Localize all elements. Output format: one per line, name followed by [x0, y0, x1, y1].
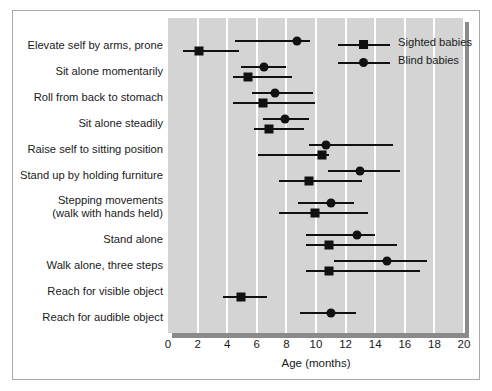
legend: Sighted babies Blind babies [338, 36, 463, 72]
circle-marker-icon [326, 199, 335, 208]
square-marker-icon [325, 267, 334, 276]
gridline [315, 18, 317, 333]
x-tick-label: 10 [301, 338, 331, 350]
square-marker-icon [236, 293, 245, 302]
category-label: Stepping movements(walk with hands held) [8, 194, 163, 220]
category-label: Stand up by holding furniture [8, 169, 163, 182]
square-marker-icon [317, 151, 326, 160]
square-marker-icon [195, 47, 204, 56]
square-marker-icon [359, 40, 368, 49]
x-tick-label: 18 [419, 338, 449, 350]
x-tick-label: 12 [331, 338, 361, 350]
circle-marker-icon [359, 58, 368, 67]
legend-item-sighted-babies: Sighted babies [338, 36, 463, 52]
x-tick-label: 6 [242, 338, 272, 350]
category-label: Reach for visible object [8, 285, 163, 298]
figure-root: Elevate self by arms, proneSit alone mom… [0, 0, 492, 391]
gridline [463, 18, 465, 333]
category-label: Raise self to sitting position [8, 143, 163, 156]
category-label: Sit alone momentarily [8, 65, 163, 78]
square-marker-icon [243, 73, 252, 82]
square-marker-icon [325, 241, 334, 250]
circle-marker-icon [260, 63, 269, 72]
x-tick-label: 0 [153, 338, 183, 350]
square-marker-icon [304, 177, 313, 186]
error-bar [183, 50, 239, 52]
circle-marker-icon [280, 115, 289, 124]
x-tick-label: 4 [212, 338, 242, 350]
square-marker-icon [264, 125, 273, 134]
category-label: Stand alone [8, 233, 163, 246]
legend-label: Blind babies [398, 54, 459, 66]
category-label: Walk alone, three steps [8, 259, 163, 272]
legend-label: Sighted babies [398, 36, 472, 48]
circle-marker-icon [356, 167, 365, 176]
circle-marker-icon [353, 231, 362, 240]
category-label: Roll from back to stomach [8, 91, 163, 104]
error-bar [254, 128, 304, 130]
x-tick-label: 2 [183, 338, 213, 350]
error-bar [279, 212, 368, 214]
category-label: Sit alone steadily [8, 117, 163, 130]
category-label: Elevate self by arms, prone [8, 39, 163, 52]
error-bar [306, 234, 376, 236]
x-tick-label: 20 [449, 338, 479, 350]
x-axis-ticks: 02468101214161820 [168, 338, 468, 358]
circle-marker-icon [383, 257, 392, 266]
x-tick-label: 14 [360, 338, 390, 350]
error-bar [233, 76, 292, 78]
error-bar [279, 180, 362, 182]
legend-item-blind-babies: Blind babies [338, 54, 463, 70]
square-marker-icon [310, 209, 319, 218]
x-tick-label: 16 [390, 338, 420, 350]
circle-marker-icon [322, 141, 331, 150]
error-bar [252, 92, 313, 94]
category-label: Reach for audible object [8, 311, 163, 324]
circle-marker-icon [292, 37, 301, 46]
x-tick-label: 8 [271, 338, 301, 350]
error-bar [334, 260, 427, 262]
gridline [197, 18, 199, 333]
category-axis-labels: Elevate self by arms, proneSit alone mom… [5, 18, 163, 333]
x-axis-title: Age (months) [168, 357, 464, 369]
error-bar [306, 244, 398, 246]
square-marker-icon [258, 99, 267, 108]
error-bar [306, 270, 420, 272]
error-bar [233, 102, 314, 104]
circle-marker-icon [326, 309, 335, 318]
gridline [226, 18, 228, 333]
circle-marker-icon [270, 89, 279, 98]
